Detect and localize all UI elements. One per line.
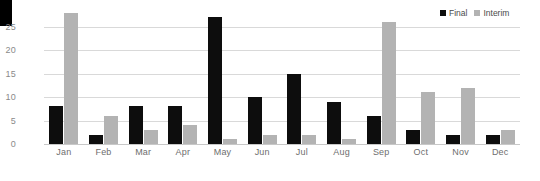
bar-interim-jul[interactable] — [302, 135, 316, 144]
bar-group — [322, 8, 362, 144]
bar-group — [441, 8, 481, 144]
bar-group — [163, 8, 203, 144]
bar-interim-may[interactable] — [223, 139, 237, 144]
x-axis-tick-label: Nov — [441, 148, 481, 166]
y-axis-tick-label: 5 — [0, 117, 16, 126]
x-axis-tick-label: Jul — [282, 148, 322, 166]
bar-group — [401, 8, 441, 144]
bar-final-may[interactable] — [208, 17, 222, 144]
bar-interim-sep[interactable] — [382, 22, 396, 144]
gridline — [44, 144, 520, 145]
interim-swatch-icon — [474, 10, 480, 16]
bar-group — [242, 8, 282, 144]
bar-interim-apr[interactable] — [183, 125, 197, 144]
bar-final-nov[interactable] — [446, 135, 460, 144]
x-axis-tick-label: Mar — [123, 148, 163, 166]
final-swatch-icon — [440, 10, 446, 16]
x-axis-tick-label: Aug — [322, 148, 362, 166]
bar-series-container — [44, 8, 520, 144]
bar-final-feb[interactable] — [89, 135, 103, 144]
bar-group — [203, 8, 243, 144]
y-axis-tick-label: 0 — [0, 140, 16, 149]
bar-final-mar[interactable] — [129, 106, 143, 144]
bar-interim-jun[interactable] — [263, 135, 277, 144]
bar-group — [123, 8, 163, 144]
bar-interim-mar[interactable] — [144, 130, 158, 144]
legend-item-final[interactable]: Final — [440, 9, 467, 18]
y-axis-tick-label: 20 — [0, 46, 16, 55]
bar-group — [361, 8, 401, 144]
x-axis-tick-label: Sep — [361, 148, 401, 166]
x-axis-tick-label: Apr — [163, 148, 203, 166]
bar-group — [282, 8, 322, 144]
legend-label-final: Final — [449, 9, 467, 18]
bar-interim-aug[interactable] — [342, 139, 356, 144]
bar-final-apr[interactable] — [168, 106, 182, 144]
x-axis-tick-label: Feb — [84, 148, 124, 166]
bar-interim-nov[interactable] — [461, 88, 475, 144]
bar-final-aug[interactable] — [327, 102, 341, 144]
x-axis-tick-labels: JanFebMarAprMayJunJulAugSepOctNovDec — [44, 148, 520, 166]
x-axis-tick-label: Oct — [401, 148, 441, 166]
bar-group — [84, 8, 124, 144]
bar-final-jul[interactable] — [287, 74, 301, 144]
x-axis-tick-label: Dec — [480, 148, 520, 166]
bar-final-dec[interactable] — [486, 135, 500, 144]
chart-legend: Final Interim — [440, 9, 509, 18]
bar-interim-dec[interactable] — [501, 130, 515, 144]
bar-group — [44, 8, 84, 144]
bar-final-sep[interactable] — [367, 116, 381, 144]
x-axis-tick-label: May — [203, 148, 243, 166]
bar-interim-oct[interactable] — [421, 92, 435, 144]
x-axis-tick-label: Jun — [242, 148, 282, 166]
bar-interim-feb[interactable] — [104, 116, 118, 144]
legend-item-interim[interactable]: Interim — [474, 9, 509, 18]
bar-final-jun[interactable] — [248, 97, 262, 144]
bar-group — [480, 8, 520, 144]
bar-chart: 0510152025 JanFebMarAprMayJunJulAugSepOc… — [0, 0, 540, 181]
legend-label-interim: Interim — [483, 9, 509, 18]
bar-interim-jan[interactable] — [64, 13, 78, 144]
x-axis-tick-label: Jan — [44, 148, 84, 166]
y-axis-tick-label: 15 — [0, 70, 16, 79]
plot-area — [44, 8, 520, 144]
bar-final-jan[interactable] — [49, 106, 63, 144]
bar-final-oct[interactable] — [406, 130, 420, 144]
y-axis-tick-label: 10 — [0, 93, 16, 102]
y-axis-tick-label: 25 — [0, 23, 16, 32]
